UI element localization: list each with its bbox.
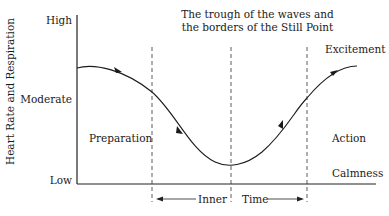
title-line-1: The trough of the waves and — [170, 8, 345, 21]
label-preparation: Preparation — [89, 133, 152, 144]
arrow-head-3 — [278, 120, 283, 129]
label-inner: Inner — [198, 194, 227, 205]
label-time: Time — [242, 194, 269, 205]
arrow-head-1 — [114, 67, 122, 73]
label-calmness: Calmness — [332, 168, 383, 179]
tick-moderate: Moderate — [20, 94, 72, 105]
wave-curve — [77, 66, 357, 165]
tick-high: High — [30, 15, 72, 26]
label-action: Action — [332, 133, 366, 144]
label-excitement: Excitement — [325, 44, 385, 55]
inner-arrow-head — [156, 197, 163, 202]
time-arrow-head — [297, 197, 304, 202]
tick-low: Low — [30, 175, 72, 186]
y-axis-label: Heart Rate and Respiration — [4, 18, 16, 165]
title-line-2: the borders of the Still Point — [170, 21, 345, 34]
diagram-title: The trough of the waves and the borders … — [170, 8, 345, 34]
arrow-head-2 — [176, 126, 183, 134]
